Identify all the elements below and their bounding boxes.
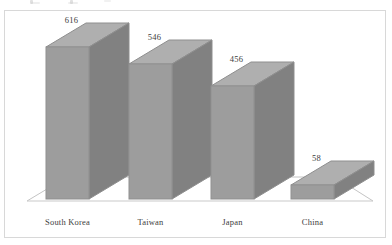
clipped-text-remnant [104,0,111,2]
category-label: Taiwan [111,217,190,227]
bar-column [291,187,334,201]
category-label: Japan [193,217,272,227]
category-label: South Korea [28,217,107,227]
bar-value-label: 456 [215,54,258,64]
bar-column [46,49,89,201]
screenshot-root: 616South Korea546Taiwan456Japan58China [0,0,392,245]
bar-3d-faces [291,161,376,201]
bar-value-label: 616 [50,15,93,25]
category-label: China [273,217,352,227]
bar-3d-faces [129,40,214,201]
bar-value-label: 546 [133,32,176,42]
bar-value-label: 58 [295,153,338,163]
clipped-text-remnant [31,2,40,4]
bar-3d-faces [46,23,131,201]
chart-area: 616South Korea546Taiwan456Japan58China [4,10,386,238]
bar-3d-faces [211,62,296,201]
bar-column [211,88,254,201]
clipped-text-remnant [68,2,78,4]
bar-column [129,66,172,201]
bars-layer [5,11,387,239]
